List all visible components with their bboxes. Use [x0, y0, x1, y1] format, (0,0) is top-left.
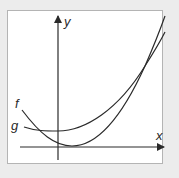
- curve-g-label: g: [11, 118, 19, 133]
- curve-f-label: f: [15, 96, 20, 111]
- curve-g: [24, 32, 165, 131]
- x-axis-label: x: [155, 128, 163, 143]
- curve-f: [22, 16, 165, 146]
- y-axis-label: y: [63, 14, 72, 29]
- function-graph: y x f g: [0, 0, 179, 178]
